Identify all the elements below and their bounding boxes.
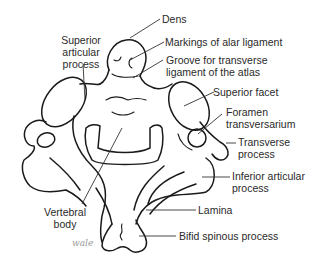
label-groove-line2: ligament of the atlas <box>166 66 260 78</box>
leader-groove <box>133 60 163 78</box>
leader-alar <box>130 42 164 60</box>
body-upper <box>80 83 100 84</box>
left-transverse-process <box>22 120 86 206</box>
leader-dens <box>130 19 160 38</box>
label-vertebral-body-line2: body <box>40 218 90 230</box>
vertebral-body <box>85 125 163 165</box>
alar-marking <box>114 57 121 61</box>
dens-base <box>140 76 154 88</box>
label-lamina: Lamina <box>198 204 232 216</box>
dens-base <box>100 70 109 84</box>
label-transverse-line1: Transverse <box>238 136 290 148</box>
label-groove-line1: Groove for transverse <box>166 54 268 66</box>
artist-signature: wale <box>72 238 93 248</box>
label-superior-articular-line3: process <box>58 58 104 70</box>
label-alar-ligament: Markings of alar ligament <box>165 36 282 48</box>
foramen-arc <box>178 134 192 150</box>
left-inferior-contour <box>50 158 80 190</box>
spinous-notch <box>120 224 122 240</box>
dens-outline <box>108 40 146 76</box>
label-vertebral-body-line1: Vertebral <box>40 206 90 218</box>
leader-superior-facet <box>184 92 214 106</box>
body-curve <box>112 112 134 115</box>
label-foramen-line1: Foramen <box>226 106 268 118</box>
label-dens: Dens <box>162 13 187 25</box>
right-foramen-transversarium <box>188 129 206 147</box>
label-inferior-articular-line2: process <box>232 182 269 194</box>
label-foramen-line2: transversarium <box>226 118 295 130</box>
left-superior-facet <box>33 69 96 135</box>
right-superior-facet <box>160 74 217 137</box>
label-transverse-line2: process <box>238 148 275 160</box>
leader-vertebral-body <box>82 128 122 204</box>
body-upper <box>154 84 172 89</box>
label-bifid-spinous-process: Bifid spinous process <box>179 230 278 242</box>
left-foramen-transversarium <box>35 130 57 149</box>
body-ridge <box>106 97 146 100</box>
label-superior-facet: Superior facet <box>213 86 278 98</box>
label-inferior-articular-line1: Inferior articular <box>232 170 305 182</box>
label-superior-articular-line1: Superior <box>58 34 104 46</box>
right-transverse-process <box>200 122 228 160</box>
label-superior-articular-line2: articular <box>58 46 104 58</box>
